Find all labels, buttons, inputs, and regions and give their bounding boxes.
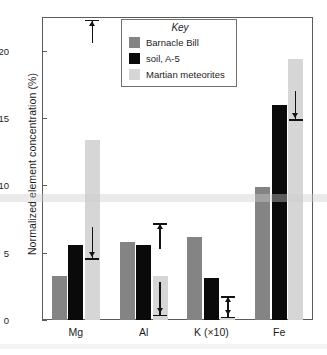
legend-label: Martian meteorites bbox=[146, 69, 225, 80]
limit-cap bbox=[289, 119, 303, 121]
legend-swatch bbox=[129, 69, 140, 80]
legend-swatch bbox=[129, 53, 140, 64]
legend-title: Key bbox=[122, 22, 238, 33]
legend-label: Barnacle Bill bbox=[146, 37, 199, 48]
legend: Key Barnacle Billsoil, A-5Martian meteor… bbox=[121, 19, 237, 87]
limit-arrowhead bbox=[292, 113, 298, 118]
legend-swatch bbox=[129, 37, 140, 48]
chart-figure: Normalized element concentration (%) 051… bbox=[0, 0, 327, 355]
legend-label: soil, A-5 bbox=[146, 53, 180, 64]
